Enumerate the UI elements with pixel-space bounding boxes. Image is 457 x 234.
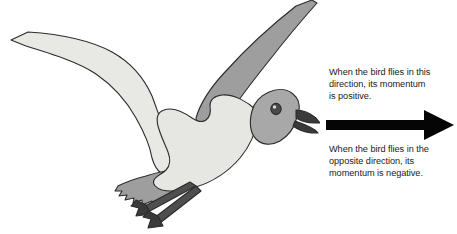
annotation-positive-line-3: is positive. bbox=[329, 90, 455, 102]
eye-highlight-shape bbox=[273, 105, 276, 109]
near-wing-shape bbox=[11, 32, 176, 174]
momentum-direction-figure: When the bird flies in this direction, i… bbox=[0, 0, 457, 234]
head-shape bbox=[250, 90, 299, 145]
annotation-negative-momentum: When the bird flies in the opposite dire… bbox=[329, 143, 455, 180]
annotation-positive-line-1: When the bird flies in this bbox=[329, 66, 455, 78]
eye-shape bbox=[271, 103, 281, 114]
annotation-negative-line-2: opposite direction, its bbox=[329, 155, 455, 167]
seagull-illustration bbox=[0, 0, 320, 234]
annotation-positive-line-2: direction, its momentum bbox=[329, 78, 455, 90]
rightward-direction-arrow-icon bbox=[326, 108, 454, 142]
annotation-negative-line-1: When the bird flies in the bbox=[329, 143, 455, 155]
beak-upper-shape bbox=[296, 110, 320, 123]
annotation-positive-momentum: When the bird flies in this direction, i… bbox=[329, 66, 455, 103]
arrow-shape bbox=[326, 110, 454, 140]
annotation-negative-line-3: momentum is negative. bbox=[329, 167, 455, 179]
